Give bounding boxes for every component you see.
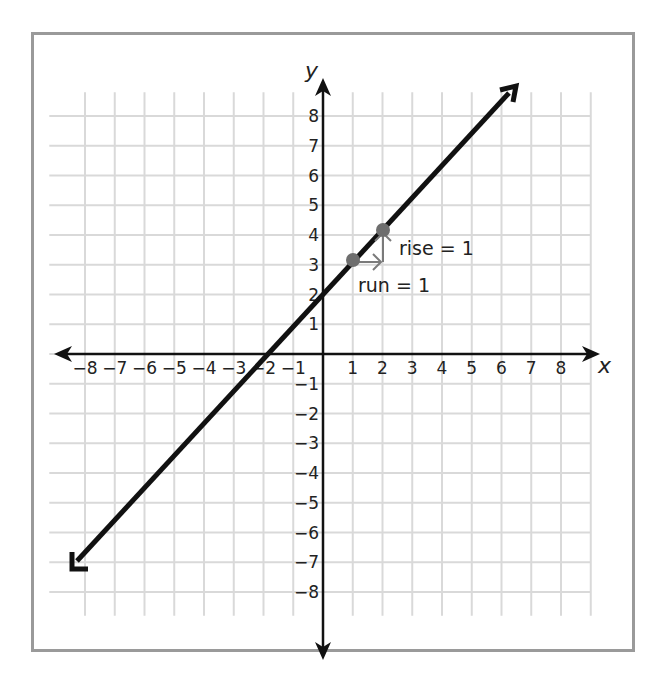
y-tick-labels-negative: −1−2−3−4−5−6−7−8 [294,374,319,602]
x-tick-label: −8 [72,358,97,378]
y-axis-label: y [304,58,319,83]
y-tick-label: −1 [294,374,319,394]
x-tick-label: 3 [407,358,418,378]
x-axis-label: x [597,353,612,378]
x-tick-label: 1 [347,358,358,378]
rise-label: rise = 1 [399,237,474,259]
y-tick-label: −2 [294,404,319,424]
run-label: run = 1 [358,274,430,296]
y-tick-label: −6 [294,523,319,543]
y-tick-label: 6 [308,166,319,186]
x-tick-label: 7 [526,358,537,378]
y-tick-label: 1 [308,314,319,334]
point-1-3 [346,253,360,267]
point-2-4 [376,223,390,237]
x-tick-label: −4 [191,358,216,378]
x-tick-label: 8 [556,358,567,378]
y-tick-label: 4 [308,225,319,245]
coordinate-plane: x y −8−7−6−5−4−3−2−1 12345678 12345678 −… [0,0,662,683]
x-tick-label: −5 [162,358,187,378]
x-tick-labels-positive: 12345678 [347,358,566,378]
x-tick-label: −6 [132,358,157,378]
x-tick-label: 5 [466,358,477,378]
y-tick-label: −8 [294,582,319,602]
x-tick-label: −7 [102,358,127,378]
y-tick-label: −7 [294,552,319,572]
y-tick-label: 8 [308,106,319,126]
y-tick-label: 7 [308,136,319,156]
y-tick-label: 5 [308,195,319,215]
x-tick-label: 6 [496,358,507,378]
x-tick-label: 2 [377,358,388,378]
x-tick-label: 4 [437,358,448,378]
y-tick-label: −4 [294,463,319,483]
x-tick-label: −3 [221,358,246,378]
y-tick-label: 3 [308,255,319,275]
x-tick-labels-negative: −8−7−6−5−4−3−2−1 [72,358,305,378]
y-tick-label: −3 [294,433,319,453]
y-tick-label: −5 [294,493,319,513]
